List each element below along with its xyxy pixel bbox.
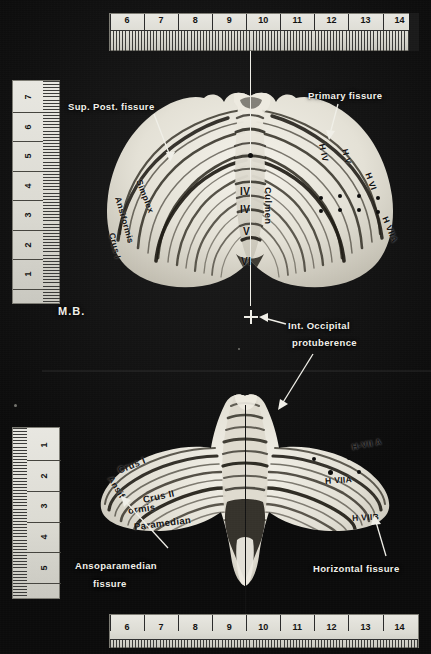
- measurement-dot: [376, 196, 380, 200]
- measurement-dot: [338, 194, 342, 198]
- upper-midline: [250, 46, 251, 306]
- label-int-occipital-line1: Int. Occipital: [288, 320, 350, 331]
- top-ruler-end-cap: [409, 13, 419, 51]
- top-ruler-fine-ticks: [110, 31, 418, 51]
- left-lower-vertical-ruler: 12345: [12, 427, 60, 599]
- left-lower-ruler-major-ticks: [27, 428, 61, 598]
- ruler-major-tick: [246, 615, 247, 631]
- ruler-major-tick: [383, 14, 384, 30]
- ruler-major-tick: [13, 289, 43, 290]
- ruler-major-tick: [178, 615, 179, 631]
- bottom-horizontal-ruler: 67891011121314: [109, 614, 419, 648]
- ruler-major-tick: [280, 615, 281, 631]
- leader-sup-post-fissure: [150, 112, 190, 164]
- left-upper-ruler-fine-ticks: [43, 81, 60, 303]
- measurement-dot: [319, 209, 323, 213]
- label-vermis-vi: VI: [241, 256, 251, 267]
- ruler-major-tick: [383, 615, 384, 631]
- ruler-major-tick: [246, 14, 247, 30]
- measurement-dot: [357, 208, 361, 212]
- leader-primary-fissure: [322, 102, 352, 144]
- label-ansoparamedian-line1: Ansoparamedian: [75, 560, 157, 571]
- label-int-occipital-line2: protuberence: [292, 337, 357, 348]
- ruler-major-tick: [27, 491, 61, 492]
- ruler-major-tick: [178, 14, 179, 30]
- label-lower-h-viia: H VIIA: [325, 474, 353, 486]
- top-horizontal-ruler: 67891011121314: [109, 13, 419, 51]
- leader-ansoparamedian-fissure: [112, 492, 174, 552]
- ruler-major-tick: [13, 200, 43, 201]
- measurement-dot: [357, 194, 361, 198]
- top-ruler-major-ticks: [110, 14, 418, 30]
- bottom-ruler-major-ticks: [110, 615, 418, 631]
- measurement-dot: [393, 461, 397, 465]
- left-upper-vertical-ruler: 7654321: [12, 80, 60, 304]
- measurement-dot: [338, 208, 342, 212]
- ruler-major-tick: [212, 14, 213, 30]
- left-upper-ruler-major-ticks: [13, 81, 43, 303]
- label-sup-post-fissure: Sup. Post. fissure: [68, 101, 155, 112]
- label-culmen: Culmen: [263, 187, 273, 225]
- ruler-major-tick: [13, 171, 43, 172]
- figure-plate: Sup. Post. fissure Primary fissure Simpl…: [0, 0, 431, 654]
- ruler-major-tick: [13, 112, 43, 113]
- label-vermis-v: V: [243, 226, 250, 237]
- measurement-dot: [376, 210, 380, 214]
- ruler-major-tick: [27, 460, 61, 461]
- measurement-dot: [347, 456, 351, 460]
- ruler-major-tick: [348, 14, 349, 30]
- measurement-dot: [312, 457, 316, 461]
- label-ansoparamedian-line2: fissure: [93, 578, 127, 589]
- ruler-major-tick: [314, 615, 315, 631]
- ruler-major-tick: [212, 615, 213, 631]
- ruler-major-tick: [27, 552, 61, 553]
- label-vermis-iv-a: IV: [240, 186, 250, 197]
- ruler-major-tick: [13, 141, 43, 142]
- photographer-initials: M.B.: [58, 305, 85, 317]
- measurement-dot: [357, 470, 361, 474]
- label-horizontal-fissure: Horizontal fissure: [313, 563, 400, 574]
- ruler-major-tick: [144, 615, 145, 631]
- bottom-ruler-fine-ticks: [110, 640, 418, 648]
- ruler-major-tick: [280, 14, 281, 30]
- ruler-major-tick: [144, 14, 145, 30]
- ruler-major-tick: [13, 259, 43, 260]
- ruler-major-tick: [13, 230, 43, 231]
- ruler-major-tick: [27, 522, 61, 523]
- ruler-major-tick: [348, 615, 349, 631]
- measurement-dot: [319, 196, 323, 200]
- ruler-major-tick: [314, 14, 315, 30]
- label-primary-fissure: Primary fissure: [308, 90, 382, 101]
- plate-speck: [14, 404, 17, 407]
- lower-midline: [245, 405, 246, 640]
- leader-occipital-upper: [256, 312, 290, 332]
- ruler-major-tick: [27, 583, 61, 584]
- left-lower-ruler-fine-ticks: [13, 428, 27, 598]
- label-vermis-iv-b: IV: [240, 204, 250, 215]
- plate-seam: [42, 370, 431, 372]
- upper-midline-marker-dot: [248, 153, 253, 158]
- plate-speck: [238, 348, 240, 350]
- ruler-major-tick: [110, 615, 111, 631]
- ruler-major-tick: [110, 14, 111, 30]
- measurement-dot: [328, 470, 333, 475]
- leader-horizontal-fissure: [368, 510, 398, 560]
